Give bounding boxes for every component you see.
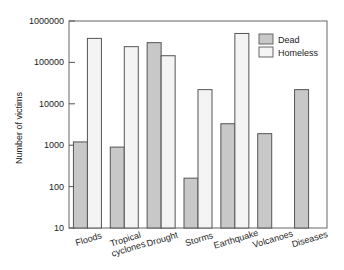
bar-dead-storms [184, 178, 198, 228]
y-tick-label: 10 [54, 223, 64, 233]
x-axis-labels: FloodsTropicalcyclonesDroughtStormsEarth… [74, 228, 329, 259]
y-axis-title: Number of victims [14, 91, 24, 164]
legend-swatch-dead [259, 34, 273, 44]
legend-swatch-homeless [259, 47, 273, 57]
bar-dead-floods [73, 142, 87, 228]
x-tick-label: Diseases [291, 229, 330, 250]
x-tick-label: Floods [74, 230, 103, 248]
bar-dead-diseases [295, 90, 309, 228]
y-tick-label: 100000 [34, 57, 64, 67]
bars [73, 33, 308, 228]
bar-homeless-earthquake [235, 33, 249, 228]
bar-homeless-drought [161, 56, 175, 228]
y-tick-label: 10000 [39, 99, 64, 109]
bar-chart: 101001000100001000001000000 FloodsTropic… [0, 0, 344, 270]
x-tick-label: Tropicalcyclones [107, 229, 147, 259]
x-tick-label: Drought [145, 230, 179, 249]
y-axis: 101001000100001000001000000 [29, 16, 75, 233]
y-tick-label: 1000000 [29, 16, 64, 26]
bar-homeless-storms [198, 90, 212, 228]
legend-label-homeless: Homeless [278, 48, 319, 58]
bar-dead-earthquake [221, 124, 235, 228]
x-tick-label: Storms [184, 230, 215, 248]
legend: DeadHomeless [259, 34, 319, 58]
bar-dead-volcanoes [258, 134, 272, 228]
bar-homeless-tropical-cyclones [124, 47, 138, 228]
y-tick-label: 100 [49, 182, 64, 192]
y-tick-label: 1000 [44, 140, 64, 150]
bar-homeless-floods [87, 38, 101, 228]
bar-dead-drought [147, 43, 161, 228]
legend-label-dead: Dead [278, 35, 300, 45]
bar-dead-tropical-cyclones [110, 147, 124, 228]
x-tick-label: Volcanoes [252, 228, 295, 250]
